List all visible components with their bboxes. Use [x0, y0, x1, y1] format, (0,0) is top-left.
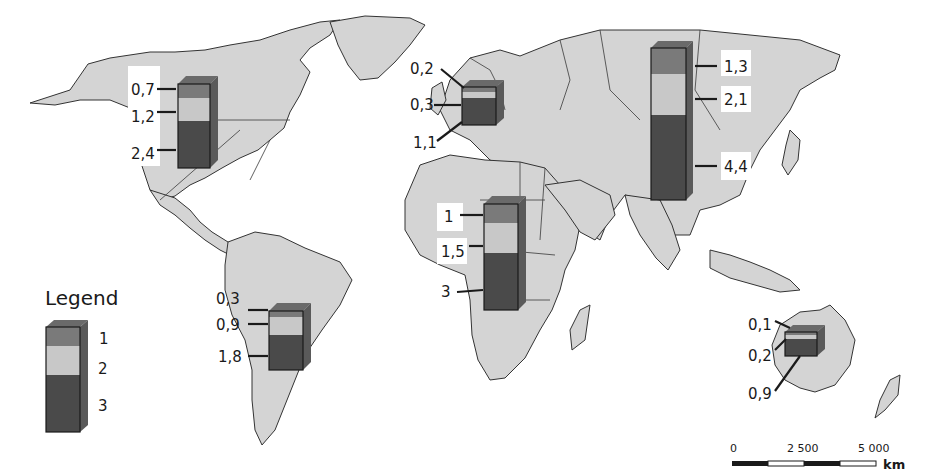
legend-label-2: 2 [98, 360, 108, 378]
legend: Legend 1 2 3 [45, 286, 118, 432]
legend-label-1: 1 [99, 330, 109, 348]
asia-bar-top [651, 41, 693, 48]
scale-tick-5000: 5 000 [858, 442, 890, 455]
africa-bar-side [518, 196, 526, 310]
africa-seg-3 [484, 253, 518, 310]
oceania-value-2: 0,2 [748, 347, 772, 365]
asia-seg-1 [651, 48, 686, 74]
africa-value-2: 1,5 [441, 243, 465, 261]
legend-label-3: 3 [98, 397, 108, 415]
legend-title: Legend [45, 286, 118, 310]
north-america-value-2: 1,2 [131, 108, 155, 126]
africa-seg-1 [484, 204, 518, 223]
europe-seg-2 [462, 92, 496, 98]
legend-swatch-2 [46, 346, 80, 375]
scale-seg-2 [768, 461, 804, 466]
europe-seg-1 [462, 87, 496, 92]
south-america-seg-3 [269, 335, 303, 370]
oceania-seg-2 [785, 335, 817, 339]
scale-seg-1 [732, 461, 768, 466]
new-zealand-landmass [875, 375, 900, 418]
south-america-seg-2 [269, 317, 303, 335]
scale-bar: 0 2 500 5 000 km [730, 442, 905, 472]
oceania-seg-3 [785, 339, 817, 356]
asia-seg-3 [651, 115, 686, 200]
legend-swatch-1 [46, 327, 80, 346]
scale-seg-3 [804, 461, 840, 466]
southeast-asia-islands [710, 250, 800, 292]
north-america-seg-2 [178, 98, 210, 121]
central-america-landmass [150, 190, 240, 256]
south-america-bar-side [303, 303, 311, 370]
north-america-value-3: 2,4 [131, 145, 155, 163]
europe-value-3: 1,1 [413, 134, 437, 152]
europe-seg-3 [462, 98, 496, 125]
oceania-value-3: 0,9 [748, 385, 772, 403]
europe-value-2: 0,3 [410, 96, 434, 114]
scale-tick-2500: 2 500 [787, 442, 819, 455]
south-america-value-3: 1,8 [218, 348, 242, 366]
legend-bar-side [80, 320, 88, 432]
scale-seg-4 [840, 461, 876, 466]
madagascar-landmass [570, 305, 590, 350]
asia-bar-side [686, 41, 693, 200]
asia-value-2: 2,1 [724, 91, 748, 109]
south-america-value-1: 0,3 [216, 290, 240, 308]
africa-value-3: 3 [441, 283, 451, 301]
legend-swatch-3 [46, 375, 80, 432]
africa-value-1: 1 [444, 208, 454, 226]
north-america-seg-3 [178, 121, 210, 168]
scale-unit: km [883, 457, 905, 472]
south-america-value-2: 0,9 [216, 316, 240, 334]
oceania-value-1: 0,1 [748, 316, 772, 334]
japan-landmass [782, 130, 800, 175]
north-america-bar-side [210, 76, 218, 168]
world-map: 0,7 1,2 2,4 0,2 0,3 1,1 1,3 2,1 4,4 [0, 0, 941, 473]
asia-value-3: 4,4 [724, 158, 748, 176]
asia-seg-2 [651, 74, 686, 115]
europe-bar-side [496, 80, 504, 125]
europe-value-1: 0,2 [410, 60, 434, 78]
south-america-seg-1 [269, 311, 303, 317]
africa-seg-2 [484, 223, 518, 253]
scale-tick-0: 0 [730, 442, 737, 455]
asia-value-1: 1,3 [724, 58, 748, 76]
north-america-seg-1 [178, 84, 210, 98]
north-america-value-1: 0,7 [131, 81, 155, 99]
land-layer [30, 16, 900, 445]
